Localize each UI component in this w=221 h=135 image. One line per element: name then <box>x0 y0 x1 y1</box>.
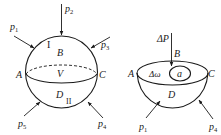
label-p1: p1 <box>9 21 18 33</box>
label-p1-right: p1 <box>138 121 147 133</box>
label-region-II: II <box>66 97 72 106</box>
label-D: D <box>55 89 64 100</box>
diagram-canvas: p1 p2 p3 p5 p4 A C B V D I II ΔP B A C Δ… <box>0 0 221 135</box>
label-D-right: D <box>167 89 176 100</box>
left-figure-sphere: p1 p2 p3 p5 p4 A C B V D I II <box>9 3 110 130</box>
label-V: V <box>57 68 65 79</box>
label-B-right: B <box>174 48 180 59</box>
arrow-p1 <box>14 36 34 48</box>
label-A-right: A <box>127 68 135 79</box>
label-p4: p4 <box>97 118 107 130</box>
arrow-p5 <box>24 102 40 116</box>
label-region-I: I <box>47 39 50 50</box>
label-A: A <box>15 69 23 80</box>
label-C-right: C <box>208 68 215 79</box>
label-C: C <box>99 69 106 80</box>
label-B: B <box>57 47 63 58</box>
right-figure-hemisphere: ΔP B A C Δω a D p1 p4 <box>127 33 218 133</box>
label-p2: p2 <box>64 3 73 15</box>
label-p3: p3 <box>100 39 109 51</box>
label-a: a <box>177 68 182 79</box>
label-deltaP: ΔP <box>156 33 169 44</box>
label-dOmega: Δω <box>148 69 161 79</box>
hemisphere-rim <box>137 61 208 85</box>
arrow-p4-right <box>199 100 213 119</box>
label-p5: p5 <box>17 118 26 130</box>
label-p4-right: p4 <box>208 121 218 133</box>
arrow-p4 <box>88 102 103 118</box>
arrow-p1-right <box>146 101 160 118</box>
